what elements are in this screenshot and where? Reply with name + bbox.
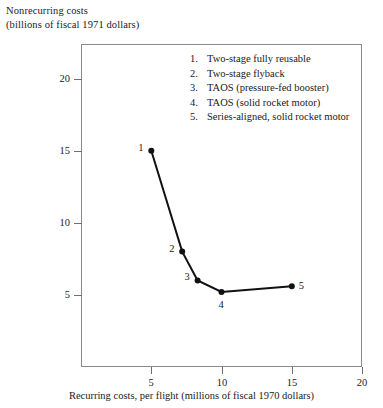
data-point-label: 3 bbox=[185, 272, 190, 283]
data-point-label: 5 bbox=[299, 281, 304, 292]
x-axis-title: Recurring costs, per flight (millions of… bbox=[0, 390, 383, 401]
chart-figure: Nonrecurring costs (billions of fiscal 1… bbox=[0, 0, 383, 408]
series-line bbox=[151, 151, 291, 292]
data-point-marker bbox=[289, 283, 295, 289]
data-point-marker bbox=[219, 289, 225, 295]
data-point-label: 4 bbox=[219, 300, 224, 311]
data-point-marker bbox=[179, 249, 185, 255]
data-point-label: 1 bbox=[138, 143, 143, 154]
data-point-marker bbox=[148, 148, 154, 154]
data-series bbox=[0, 0, 383, 408]
data-point-label: 2 bbox=[169, 244, 174, 255]
data-point-marker bbox=[195, 278, 201, 284]
